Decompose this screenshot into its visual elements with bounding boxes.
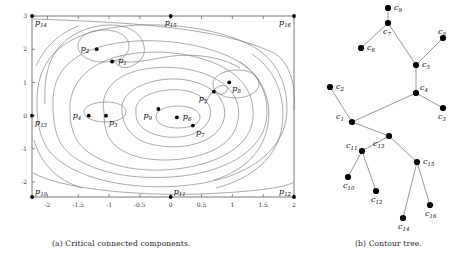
tree-node-label: c16: [425, 209, 437, 219]
critical-point-subscript: 15: [170, 22, 177, 28]
critical-point-label: p10: [35, 187, 48, 197]
critical-point-subscript: 11: [179, 191, 186, 197]
contour-level-1b: [33, 173, 294, 194]
tree-node-subscript: 12: [375, 199, 382, 205]
tree-node-label: c12: [371, 195, 383, 205]
critical-point-marker: [110, 60, 114, 64]
contour-tree-svg: c1c2c3c4c5c6c7c8c9c10c11c12c13c14c15c16: [300, 0, 470, 230]
critical-point-marker: [87, 114, 91, 118]
contour-level-6: [122, 79, 225, 147]
tree-node-label: c9: [394, 3, 402, 13]
tree-node-subscript: 13: [377, 143, 384, 149]
x-tick-label: 2: [292, 201, 296, 208]
critical-point-marker: [104, 114, 108, 118]
tree-node-subscript: 10: [347, 185, 354, 191]
critical-point-marker: [169, 195, 173, 199]
critical-point-label: p16: [279, 18, 292, 28]
tree-node: [345, 174, 351, 180]
tree-node-label: c10: [343, 181, 355, 191]
y-tick-label: 0: [23, 112, 27, 119]
x-tick-label: -1: [106, 201, 112, 208]
tree-node-subscript: 3: [442, 116, 446, 122]
caption-panel-b: (b) Contour tree.: [355, 239, 422, 248]
critical-point-label: p5: [199, 94, 208, 104]
critical-point-marker: [156, 107, 160, 111]
contour-saddle-p1: [45, 25, 240, 104]
critical-point-subscript: 3: [114, 122, 118, 128]
critical-point-label: p1: [118, 56, 127, 66]
tree-node-subscript: 2: [339, 86, 344, 92]
tree-node: [413, 62, 419, 68]
contour-level-4: [70, 52, 253, 170]
tree-edge: [416, 93, 443, 108]
contour-right-sweep-1: [214, 62, 269, 180]
critical-point-label: p9: [143, 111, 152, 121]
y-tick-label: -2: [21, 178, 27, 185]
contour-lobe-p3: [84, 102, 126, 122]
y-tick-label: -1: [21, 145, 27, 152]
critical-point-label: p7: [196, 128, 205, 138]
critical-point-label: p13: [35, 118, 48, 128]
tree-node-subscript: 15: [427, 161, 434, 167]
tree-node-label: c1: [336, 112, 344, 122]
contour-saddle-p5: [205, 85, 228, 104]
critical-point-subscript: 5: [204, 98, 208, 104]
critical-point-marker: [191, 124, 195, 128]
x-tick-label: -1.5: [72, 201, 84, 208]
critical-point-marker: [30, 14, 34, 18]
critical-point-marker: [95, 47, 99, 51]
contour-level-1: [33, 19, 294, 110]
critical-point-subscript: 14: [40, 22, 47, 28]
tree-edge: [388, 23, 416, 65]
critical-point-label: p12: [279, 187, 292, 197]
tree-node-label: c15: [423, 157, 435, 167]
contour-level-2: [37, 25, 287, 187]
tree-edge: [389, 136, 417, 162]
tree-node: [413, 90, 419, 96]
critical-point-label: p15: [165, 18, 178, 28]
y-tick-label: 1: [23, 79, 27, 86]
tree-node-label: c2: [336, 82, 344, 92]
tree-node: [359, 148, 365, 154]
critical-point-label: p6: [183, 112, 192, 122]
x-tick-label: 1.5: [258, 201, 268, 208]
critical-point-subscript: 12: [284, 191, 291, 197]
contour-left-sweep-1: [36, 26, 78, 66]
contour-plot-svg: -2-1.5-1-0.500.511.52 -2-10123: [0, 0, 300, 230]
tree-node: [440, 105, 446, 111]
y-tick-label: 2: [23, 45, 27, 52]
critical-point-subscript: 16: [284, 22, 291, 28]
tree-node-subscript: 16: [429, 213, 436, 219]
x-tick-label: -2: [44, 201, 50, 208]
tree-edge: [417, 162, 430, 205]
critical-point-subscript: 10: [40, 191, 47, 197]
critical-point-subscript: 9: [149, 115, 153, 121]
tree-node: [327, 84, 333, 90]
critical-point-subscript: 6: [188, 116, 192, 122]
tree-node: [385, 5, 391, 11]
x-tick-label: 0: [169, 201, 173, 208]
tree-edge: [348, 151, 362, 177]
tree-node: [358, 45, 364, 51]
critical-point-marker: [175, 115, 179, 119]
y-tick-label: 3: [23, 12, 27, 19]
x-tick-label: 1: [230, 201, 234, 208]
tree-nodes-group: c1c2c3c4c5c6c7c8c9c10c11c12c13c14c15c16: [327, 3, 447, 232]
tree-node-subscript: 8: [442, 31, 446, 37]
critical-point-subscript: 13: [40, 122, 47, 128]
y-tick-group: -2-10123: [21, 12, 35, 185]
panel-contour-tree: c1c2c3c4c5c6c7c8c9c10c11c12c13c14c15c16: [300, 0, 470, 230]
tree-node-subscript: 9: [398, 7, 402, 13]
critical-point-label: p8: [232, 84, 241, 94]
tree-node-subscript: 7: [387, 31, 391, 37]
critical-point-subscript: 2: [85, 48, 90, 54]
tree-node-subscript: 14: [402, 226, 409, 232]
critical-point-subscript: 4: [77, 115, 82, 121]
critical-point-marker: [292, 14, 296, 18]
tree-node: [385, 20, 391, 26]
contour-right-sweep-2: [216, 54, 283, 188]
critical-point-subscript: 8: [237, 88, 241, 94]
tree-edge: [352, 93, 416, 122]
critical-point-marker: [227, 81, 231, 85]
tree-node-label: c8: [438, 27, 446, 37]
